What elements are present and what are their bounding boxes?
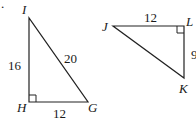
triangle-ihg-outline bbox=[29, 18, 88, 102]
stray-dot: . bbox=[1, 0, 4, 11]
side-label-ih: 16 bbox=[8, 58, 22, 73]
vertex-label-g: G bbox=[88, 100, 98, 115]
right-angle-marker-h bbox=[29, 95, 36, 102]
similar-triangles-diagram: . I H G 16 20 12 J L K 12 9 bbox=[0, 0, 196, 120]
vertex-label-j: J bbox=[102, 19, 109, 34]
triangle-jlk: J L K 12 9 bbox=[102, 10, 196, 96]
right-angle-marker-l bbox=[177, 26, 184, 33]
side-label-lk: 9 bbox=[191, 47, 196, 62]
vertex-label-k: K bbox=[178, 81, 189, 96]
side-label-jl: 12 bbox=[144, 10, 157, 25]
vertex-label-h: H bbox=[16, 100, 27, 115]
side-label-ig: 20 bbox=[64, 51, 77, 66]
triangle-ihg: I H G 16 20 12 bbox=[8, 2, 98, 120]
vertex-label-l: L bbox=[185, 14, 193, 29]
side-label-hg: 12 bbox=[53, 106, 66, 120]
vertex-label-i: I bbox=[21, 2, 27, 17]
triangle-jlk-outline bbox=[113, 26, 184, 78]
